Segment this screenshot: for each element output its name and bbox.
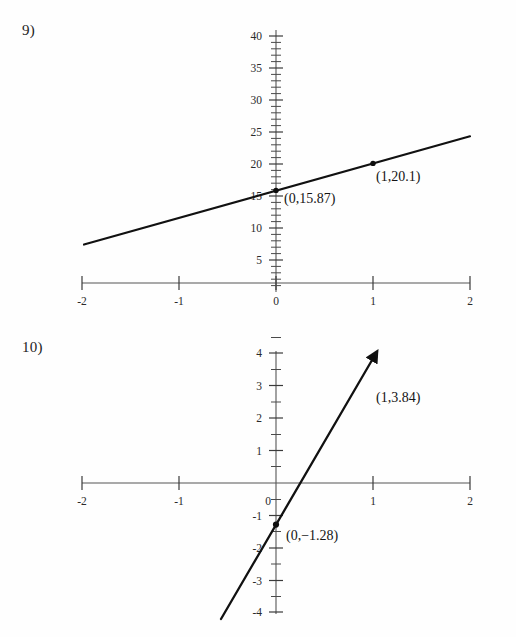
y-tick-label: 25	[251, 126, 263, 138]
x-tick-label: -1	[174, 495, 184, 507]
point-label-intercept: (0,15.87)	[284, 191, 336, 207]
x-tick-label: 2	[467, 495, 473, 507]
x-axis-tick-labels: -2 -1 0 1 2	[77, 295, 473, 307]
x-tick-label: 2	[467, 295, 473, 307]
y-tick-label: -1	[252, 510, 262, 522]
x-tick-label: 0	[273, 295, 279, 307]
x-tick-label: -2	[77, 495, 87, 507]
point-label-intercept: (0,−1.28)	[286, 528, 339, 544]
graph-10: -2 -1 0 1 2	[0, 318, 516, 637]
x-tick-label: -1	[174, 295, 184, 307]
point-label-x1: (1,3.84)	[376, 390, 421, 406]
y-tick-label: 20	[251, 158, 263, 170]
y-tick-label: 10	[251, 222, 263, 234]
problem-10: 10)	[0, 318, 516, 637]
y-axis-tick-labels: 5 10 15 20 25 30 35 40	[251, 30, 263, 266]
data-point-intercept	[273, 522, 279, 528]
point-label-x1: (1,20.1)	[376, 169, 421, 185]
y-tick-label: 40	[251, 30, 263, 42]
y-tick-label: 35	[251, 62, 263, 74]
worksheet-page: 9) -2 -1 0	[0, 0, 516, 637]
x-tick-label: 1	[370, 295, 376, 307]
x-axis-tick-labels: -2 -1 0 1 2	[77, 495, 473, 507]
x-tick-label: 0	[265, 495, 271, 507]
y-tick-label: 1	[256, 445, 262, 457]
x-tick-label: 1	[370, 495, 376, 507]
y-tick-label: 5	[256, 254, 262, 266]
data-point-intercept	[273, 188, 278, 193]
graph-9: -2 -1 0 1 2	[0, 0, 516, 318]
regression-line	[221, 355, 375, 619]
y-tick-label: 3	[256, 380, 262, 392]
y-tick-label: 4	[256, 347, 262, 359]
problem-9: 9) -2 -1 0	[0, 0, 516, 318]
y-tick-label: 30	[251, 94, 263, 106]
y-tick-label: -4	[252, 606, 262, 618]
data-point-x1	[370, 355, 376, 361]
data-point-x1	[370, 161, 375, 166]
y-tick-label: 2	[256, 412, 262, 424]
y-tick-label: -3	[252, 575, 262, 587]
x-tick-label: -2	[77, 295, 87, 307]
